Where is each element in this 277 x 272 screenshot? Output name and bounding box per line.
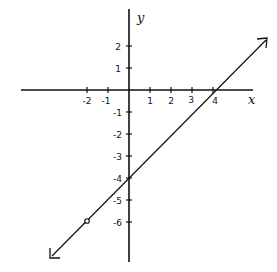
x-axis-label: x (248, 92, 256, 107)
x-tick-label: 4 (212, 96, 218, 106)
x-tick-label: -2 (83, 96, 92, 106)
y-tick-label: -3 (113, 152, 122, 162)
y-tick-label: -4 (113, 174, 122, 184)
x-tick-label: -1 (102, 96, 111, 106)
y-tick-label: -5 (113, 196, 122, 206)
coordinate-plane: -2 -1 1 2 3 4 2 1 -1 -2 -3 -4 -5 -6 y x (0, 0, 277, 272)
plotted-line (52, 40, 266, 256)
open-circle-point (85, 219, 90, 224)
y-tick-label: -6 (113, 218, 122, 228)
y-tick-label: -2 (113, 130, 122, 140)
x-tick-label: 1 (147, 96, 153, 106)
arrow-up-right-icon (257, 38, 267, 48)
y-axis-label: y (136, 10, 145, 25)
y-tick-label: 2 (115, 42, 121, 52)
x-tick-label: 3 (188, 95, 194, 105)
y-tick-label: 1 (115, 64, 121, 74)
x-tick-label: 2 (168, 96, 174, 106)
y-tick-label: -1 (113, 108, 122, 118)
